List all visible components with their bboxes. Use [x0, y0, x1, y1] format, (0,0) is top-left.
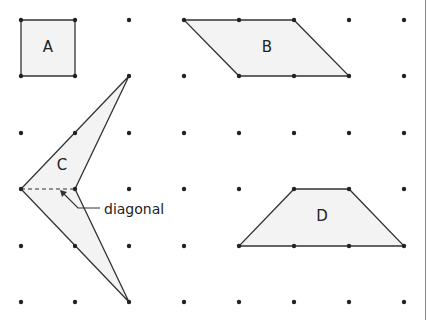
grid-dot — [402, 18, 406, 22]
shapes-layer — [21, 20, 404, 302]
right-border-line — [425, 0, 426, 320]
grid-dot — [127, 187, 131, 191]
grid-dot — [402, 244, 406, 248]
grid-dot — [73, 18, 77, 22]
grid-dot — [182, 74, 186, 78]
grid-dot — [402, 187, 406, 191]
shape-label-c: C — [57, 156, 67, 174]
grid-dot — [182, 18, 186, 22]
grid-dot — [19, 131, 23, 135]
grid-dot — [237, 74, 241, 78]
grid-dot — [402, 74, 406, 78]
grid-dot — [237, 300, 241, 304]
grid-dot — [347, 131, 351, 135]
grid-dot — [127, 131, 131, 135]
grid-dot — [19, 244, 23, 248]
grid-dot — [237, 131, 241, 135]
grid-dot — [402, 131, 406, 135]
grid-dot — [347, 187, 351, 191]
grid-dot — [292, 300, 296, 304]
grid-dot — [292, 187, 296, 191]
grid-dot — [19, 74, 23, 78]
grid-dot — [73, 131, 77, 135]
grid-dot — [237, 244, 241, 248]
grid-dot — [292, 18, 296, 22]
grid-dot — [237, 18, 241, 22]
shape-label-d: D — [316, 207, 328, 225]
grid-dot — [127, 244, 131, 248]
grid-dot — [347, 300, 351, 304]
grid-dot — [292, 244, 296, 248]
grid-dot — [127, 74, 131, 78]
grid-dot — [237, 187, 241, 191]
grid-dot — [19, 300, 23, 304]
grid-dot — [347, 244, 351, 248]
grid-dot — [292, 131, 296, 135]
grid-dot — [73, 74, 77, 78]
grid-dot — [182, 131, 186, 135]
grid-dot — [127, 18, 131, 22]
shape-label-a: A — [43, 38, 54, 56]
grid-dot — [182, 300, 186, 304]
grid-dot — [292, 74, 296, 78]
grid-dot — [73, 300, 77, 304]
grid-dot — [73, 244, 77, 248]
grid-dot — [347, 74, 351, 78]
grid-dot — [127, 300, 131, 304]
grid-dot — [182, 187, 186, 191]
dot-grid-diagram: diagonal ABCD — [0, 0, 427, 320]
grid-dot — [19, 18, 23, 22]
diagonal-label: diagonal — [104, 201, 164, 217]
grid-dot — [182, 244, 186, 248]
grid-dot — [402, 300, 406, 304]
grid-dot — [347, 18, 351, 22]
shape-label-b: B — [262, 38, 272, 56]
